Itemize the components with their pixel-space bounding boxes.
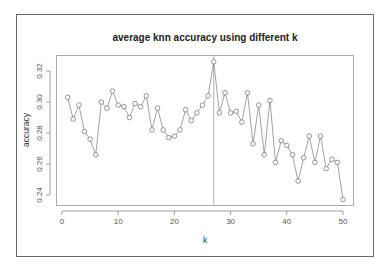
data-point-marker [105, 106, 110, 111]
data-point-marker [82, 129, 87, 134]
data-point-marker [88, 137, 93, 142]
data-point-marker [285, 143, 290, 148]
data-series [65, 59, 345, 202]
data-point-marker [329, 157, 334, 162]
y-tick-label: 0.28 [35, 125, 44, 141]
data-point-marker [144, 94, 149, 99]
data-point-marker [279, 138, 284, 143]
x-tick-label: 10 [114, 217, 123, 226]
data-point-marker [189, 118, 194, 123]
data-point-marker [166, 135, 171, 140]
data-point-marker [228, 111, 233, 116]
x-axis: 01020304050 [60, 211, 348, 226]
data-point-marker [341, 197, 346, 202]
data-point-marker [223, 90, 228, 95]
y-tick-label: 0.24 [35, 187, 44, 203]
data-point-marker [195, 111, 200, 116]
data-point-marker [99, 100, 104, 105]
y-tick-label: 0.32 [35, 63, 44, 79]
y-axis-title: accuracy [21, 112, 31, 147]
data-point-marker [301, 156, 306, 161]
data-point-marker [251, 142, 256, 147]
plot-area [57, 56, 354, 206]
data-point-marker [200, 103, 205, 108]
data-point-marker [318, 134, 323, 139]
data-point-marker [273, 160, 278, 165]
y-tick-label: 0.26 [35, 156, 44, 172]
data-point-marker [313, 160, 318, 165]
data-point-marker [183, 107, 188, 112]
data-point-marker [217, 111, 222, 116]
data-point-marker [172, 134, 177, 139]
data-point-marker [307, 134, 312, 139]
y-tick-label: 0.30 [35, 94, 44, 110]
data-point-marker [262, 152, 267, 157]
x-tick-label: 30 [226, 217, 235, 226]
data-point-marker [234, 109, 239, 114]
data-point-marker [133, 101, 138, 106]
data-point-marker [127, 115, 132, 120]
data-point-marker [77, 103, 82, 108]
knn-accuracy-chart: average knn accuracy using different k 0… [0, 0, 387, 274]
data-point-marker [155, 106, 160, 111]
data-point-marker [71, 117, 76, 122]
x-tick-label: 0 [60, 217, 65, 226]
data-point-marker [138, 104, 143, 109]
data-point-marker [178, 128, 183, 133]
data-point-marker [116, 103, 121, 108]
x-tick-label: 20 [170, 217, 179, 226]
data-point-marker [150, 128, 155, 133]
accuracy-line [68, 62, 343, 200]
data-point-marker [245, 90, 250, 95]
x-axis-title: k [203, 235, 208, 245]
data-point-marker [161, 128, 166, 133]
data-point-marker [93, 152, 98, 157]
data-point-marker [268, 98, 273, 103]
data-point-marker [324, 166, 329, 171]
data-point-marker [256, 103, 261, 108]
chart-title: average knn accuracy using different k [112, 32, 298, 43]
data-point-marker [110, 89, 115, 94]
data-point-marker [290, 152, 295, 157]
x-tick-label: 50 [339, 217, 348, 226]
data-point-marker [296, 179, 301, 184]
data-point-marker [65, 95, 70, 100]
data-point-marker [335, 160, 340, 165]
y-axis: 0.240.260.280.300.32 [35, 63, 50, 203]
data-point-marker [240, 120, 245, 125]
data-point-marker [211, 59, 216, 64]
data-point-marker [206, 94, 211, 99]
x-tick-label: 40 [282, 217, 291, 226]
data-point-marker [122, 104, 127, 109]
